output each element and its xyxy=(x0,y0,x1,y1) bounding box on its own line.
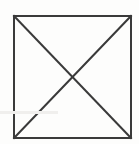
square-with-diagonals-drawing xyxy=(0,0,139,144)
figure-background xyxy=(0,0,139,144)
figure-container xyxy=(0,0,139,144)
